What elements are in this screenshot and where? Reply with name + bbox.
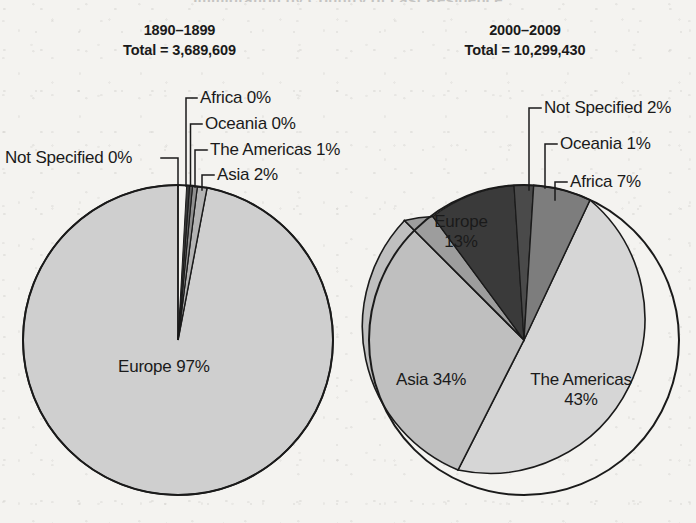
slice-label-right-europe: Europe 13% [413,212,509,252]
callout-right-not-specified: Not Specified 2% [544,98,671,117]
callout-right-oceania: Oceania 1% [560,134,651,153]
callout-left-not-specified: Not Specified 0% [5,148,132,167]
callout-left-oceania: Oceania 0% [205,114,296,133]
pie-chart-right [362,185,679,495]
callout-right-africa: Africa 7% [570,172,641,191]
figure-canvas: Immigration by Country of Last Residence… [0,0,696,523]
leader-left-not-specified [161,158,178,186]
leader-left-oceania [191,124,203,186]
slice-label-right-europe-line2: 13% [413,232,509,252]
leader-lines-left [161,98,214,190]
callout-left-americas: The Americas 1% [210,140,340,159]
callout-left-africa: Africa 0% [200,88,271,107]
pie-chart-left [23,185,333,495]
slice-label-right-europe-line1: Europe [413,212,509,232]
pie-charts-svg [0,0,696,523]
slice-label-right-americas-line1: The Americas [516,370,646,390]
callout-left-asia: Asia 2% [217,165,278,184]
slice-label-right-asia: Asia 34% [396,370,466,390]
leader-left-americas [195,150,207,187]
slice-label-right-americas: The Americas 43% [516,370,646,410]
slice-label-right-americas-line2: 43% [516,390,646,410]
leader-right-not-specified [529,108,541,190]
slice-label-left-europe: Europe 97% [118,357,210,377]
